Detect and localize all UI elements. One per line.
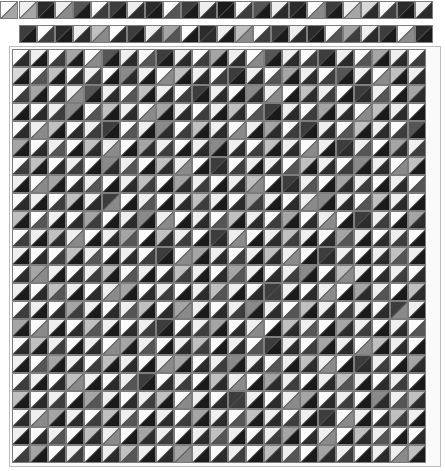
matrix-cell[interactable] — [174, 247, 192, 265]
matrix-cell[interactable] — [354, 103, 372, 121]
matrix-cell[interactable] — [30, 355, 48, 373]
matrix-cell[interactable] — [282, 157, 300, 175]
strip-cell[interactable] — [343, 1, 361, 19]
matrix-cell[interactable] — [300, 193, 318, 211]
matrix-cell[interactable] — [408, 85, 426, 103]
matrix-cell[interactable] — [102, 103, 120, 121]
matrix-cell[interactable] — [156, 283, 174, 301]
matrix-cell[interactable] — [138, 247, 156, 265]
matrix-cell[interactable] — [174, 85, 192, 103]
matrix-cell[interactable] — [336, 391, 354, 409]
matrix-cell[interactable] — [48, 121, 66, 139]
matrix-cell[interactable] — [12, 229, 30, 247]
matrix-cell[interactable] — [390, 247, 408, 265]
matrix-cell[interactable] — [318, 373, 336, 391]
matrix-cell[interactable] — [246, 355, 264, 373]
matrix-cell[interactable] — [336, 409, 354, 427]
matrix-cell[interactable] — [300, 247, 318, 265]
matrix-cell[interactable] — [246, 121, 264, 139]
matrix-cell[interactable] — [282, 103, 300, 121]
matrix-cell[interactable] — [174, 175, 192, 193]
matrix-cell[interactable] — [264, 67, 282, 85]
matrix-cell[interactable] — [210, 409, 228, 427]
matrix-cell[interactable] — [264, 355, 282, 373]
matrix-cell[interactable] — [192, 247, 210, 265]
matrix-cell[interactable] — [138, 337, 156, 355]
matrix-cell[interactable] — [408, 229, 426, 247]
matrix-cell[interactable] — [246, 283, 264, 301]
matrix-cell[interactable] — [408, 211, 426, 229]
matrix-cell[interactable] — [318, 229, 336, 247]
strip-cell[interactable] — [145, 1, 163, 19]
matrix-cell[interactable] — [210, 175, 228, 193]
strip-cell[interactable] — [55, 1, 73, 19]
matrix-cell[interactable] — [300, 139, 318, 157]
matrix-cell[interactable] — [282, 193, 300, 211]
matrix-cell[interactable] — [210, 139, 228, 157]
matrix-cell[interactable] — [390, 49, 408, 67]
matrix-cell[interactable] — [246, 211, 264, 229]
matrix-cell[interactable] — [354, 139, 372, 157]
matrix-cell[interactable] — [246, 337, 264, 355]
matrix-cell[interactable] — [210, 355, 228, 373]
matrix-cell[interactable] — [102, 283, 120, 301]
matrix-cell[interactable] — [210, 427, 228, 445]
matrix-cell[interactable] — [30, 49, 48, 67]
matrix-cell[interactable] — [84, 229, 102, 247]
matrix-cell[interactable] — [84, 283, 102, 301]
matrix-cell[interactable] — [120, 247, 138, 265]
matrix-cell[interactable] — [336, 49, 354, 67]
matrix-cell[interactable] — [246, 85, 264, 103]
matrix-cell[interactable] — [138, 445, 156, 463]
matrix-cell[interactable] — [282, 85, 300, 103]
strip-cell[interactable] — [181, 1, 199, 19]
matrix-cell[interactable] — [372, 103, 390, 121]
matrix-cell[interactable] — [318, 85, 336, 103]
matrix-cell[interactable] — [408, 319, 426, 337]
matrix-cell[interactable] — [30, 229, 48, 247]
matrix-cell[interactable] — [192, 427, 210, 445]
matrix-cell[interactable] — [174, 301, 192, 319]
matrix-cell[interactable] — [120, 283, 138, 301]
strip-cell[interactable] — [55, 25, 73, 43]
strip-cell[interactable] — [217, 1, 235, 19]
matrix-cell[interactable] — [300, 211, 318, 229]
matrix-cell[interactable] — [66, 409, 84, 427]
matrix-cell[interactable] — [66, 175, 84, 193]
matrix-cell[interactable] — [318, 301, 336, 319]
matrix-cell[interactable] — [390, 139, 408, 157]
matrix-cell[interactable] — [408, 283, 426, 301]
matrix-cell[interactable] — [48, 85, 66, 103]
matrix-cell[interactable] — [66, 229, 84, 247]
matrix-cell[interactable] — [372, 67, 390, 85]
matrix-cell[interactable] — [318, 211, 336, 229]
matrix-cell[interactable] — [264, 211, 282, 229]
matrix-cell[interactable] — [66, 193, 84, 211]
matrix-cell[interactable] — [156, 427, 174, 445]
matrix-cell[interactable] — [192, 301, 210, 319]
matrix-cell[interactable] — [84, 391, 102, 409]
matrix-cell[interactable] — [30, 409, 48, 427]
matrix-cell[interactable] — [372, 211, 390, 229]
strip-cell[interactable] — [217, 25, 235, 43]
matrix-cell[interactable] — [408, 139, 426, 157]
matrix-cell[interactable] — [66, 121, 84, 139]
matrix-cell[interactable] — [30, 193, 48, 211]
matrix-cell[interactable] — [66, 247, 84, 265]
matrix-cell[interactable] — [156, 445, 174, 463]
matrix-cell[interactable] — [228, 265, 246, 283]
matrix-cell[interactable] — [120, 49, 138, 67]
matrix-cell[interactable] — [48, 409, 66, 427]
matrix-cell[interactable] — [48, 247, 66, 265]
matrix-cell[interactable] — [120, 85, 138, 103]
matrix-cell[interactable] — [318, 193, 336, 211]
matrix-cell[interactable] — [102, 337, 120, 355]
matrix-cell[interactable] — [264, 301, 282, 319]
matrix-cell[interactable] — [210, 103, 228, 121]
matrix-cell[interactable] — [228, 85, 246, 103]
matrix-cell[interactable] — [408, 355, 426, 373]
matrix-cell[interactable] — [30, 67, 48, 85]
matrix-cell[interactable] — [318, 445, 336, 463]
matrix-cell[interactable] — [138, 157, 156, 175]
matrix-cell[interactable] — [156, 373, 174, 391]
